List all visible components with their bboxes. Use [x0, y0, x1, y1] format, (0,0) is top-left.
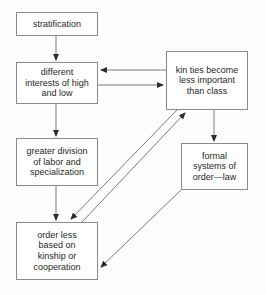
node-kin-ties[interactable]: kin ties become less important than clas… — [166, 51, 248, 110]
node-different-interests[interactable]: different interests of high and low — [16, 62, 98, 104]
node-greater-division[interactable]: greater division of labor and specializa… — [16, 138, 98, 186]
node-order-less[interactable]: order less based on kinship or cooperati… — [16, 222, 98, 280]
node-order-less-label: order less based on kinship or cooperati… — [33, 230, 80, 272]
node-formal-systems-label: formal systems of order—law — [193, 151, 237, 183]
node-stratification-label: stratification — [33, 19, 81, 30]
flow-diagram: stratification different interests of hi… — [0, 0, 266, 295]
node-different-interests-label: different interests of high and low — [25, 67, 89, 99]
edge-formal-to-orderless — [101, 190, 181, 267]
node-kin-ties-label: kin ties become less important than clas… — [176, 65, 239, 97]
node-greater-division-label: greater division of labor and specializa… — [26, 146, 87, 178]
node-stratification[interactable]: stratification — [16, 12, 98, 36]
node-formal-systems[interactable]: formal systems of order—law — [181, 143, 248, 190]
